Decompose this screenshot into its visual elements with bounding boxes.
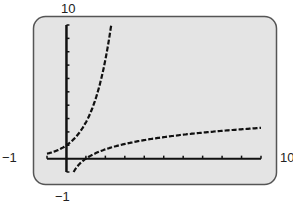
window-xmax-label: 10 (280, 151, 293, 164)
window-ymax-label: 10 (61, 2, 75, 15)
calculator-graph (0, 0, 293, 206)
window-xmin-label: −1 (2, 151, 17, 164)
window-ymin-label: −1 (55, 190, 70, 203)
